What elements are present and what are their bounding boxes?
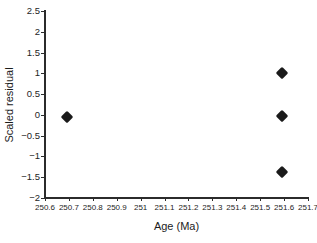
x-axis-tick-label: 250.7 bbox=[59, 203, 79, 212]
y-axis-tick-label: 1.5 bbox=[27, 48, 40, 58]
scatter-plot-figure: −2−1.5−1−0.500.511.522.5 250.6250.7250.8… bbox=[0, 0, 317, 243]
x-axis-tick-mark bbox=[141, 197, 142, 201]
x-axis-tick-mark bbox=[308, 197, 309, 201]
x-axis-tick-mark bbox=[188, 197, 189, 201]
y-axis-tick-mark bbox=[41, 73, 45, 74]
y-axis-tick-label: −0.5 bbox=[21, 131, 40, 141]
y-axis-tick-mark bbox=[41, 156, 45, 157]
y-axis-tick-mark bbox=[41, 53, 45, 54]
x-axis-title: Age (Ma) bbox=[45, 220, 308, 232]
y-axis-title-text: Scaled residual bbox=[3, 67, 15, 142]
x-axis-tick-label: 250.9 bbox=[107, 203, 127, 212]
y-axis-tick-label: −2 bbox=[29, 193, 40, 203]
x-axis-tick-mark bbox=[236, 197, 237, 201]
x-axis-tick-mark bbox=[260, 197, 261, 201]
x-axis-tick-mark bbox=[69, 197, 70, 201]
x-axis-tick-label: 250.6 bbox=[35, 203, 55, 212]
data-point bbox=[275, 67, 288, 80]
y-axis-tick-mark bbox=[41, 11, 45, 12]
y-axis-tick-label: −1 bbox=[29, 151, 40, 161]
data-point bbox=[275, 166, 288, 179]
x-axis-tick-label: 251.5 bbox=[250, 203, 270, 212]
x-axis-tick-mark bbox=[45, 197, 46, 201]
x-axis-tick-label: 250.8 bbox=[83, 203, 103, 212]
y-axis-tick-mark bbox=[41, 94, 45, 95]
x-axis-tick-label: 251.6 bbox=[274, 203, 294, 212]
data-point bbox=[60, 111, 73, 124]
x-axis-tick-label: 251.7 bbox=[298, 203, 317, 212]
x-axis-tick-label: 251.3 bbox=[202, 203, 222, 212]
y-axis-tick-mark bbox=[41, 177, 45, 178]
x-axis-tick-mark bbox=[165, 197, 166, 201]
x-axis-tick-label: 251.2 bbox=[178, 203, 198, 212]
y-axis-tick-mark bbox=[41, 136, 45, 137]
y-axis-title: Scaled residual bbox=[2, 11, 16, 198]
x-axis-tick-label: 251.4 bbox=[226, 203, 246, 212]
x-axis-tick-label: 251.1 bbox=[155, 203, 175, 212]
x-axis-tick-label: 251 bbox=[134, 203, 147, 212]
y-axis-tick-label: 2.5 bbox=[27, 6, 40, 16]
y-axis-tick-label: −1.5 bbox=[21, 172, 40, 182]
x-axis-tick-mark bbox=[212, 197, 213, 201]
x-axis-tick-mark bbox=[284, 197, 285, 201]
y-axis-tick-mark bbox=[41, 32, 45, 33]
y-axis-tick-label: 2 bbox=[35, 27, 40, 37]
data-point bbox=[275, 110, 288, 123]
x-axis-tick-mark bbox=[117, 197, 118, 201]
x-axis-tick-mark bbox=[93, 197, 94, 201]
y-axis-tick-label: 1 bbox=[35, 68, 40, 78]
plot-area: −2−1.5−1−0.500.511.522.5 bbox=[45, 11, 308, 198]
y-axis-tick-label: 0.5 bbox=[27, 89, 40, 99]
y-axis-tick-label: 0 bbox=[35, 110, 40, 120]
y-axis-tick-mark bbox=[41, 115, 45, 116]
